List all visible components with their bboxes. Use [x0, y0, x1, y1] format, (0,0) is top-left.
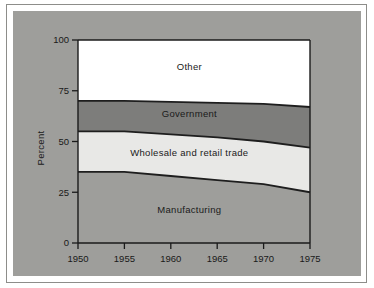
- x-tick-label-1965: 1965: [207, 253, 228, 264]
- stacked-area-chart: 0255075100 195019551960196519701975 Perc…: [0, 0, 374, 288]
- x-tick-label-1975: 1975: [299, 253, 320, 264]
- y-tick-label-50: 50: [58, 136, 69, 147]
- series-label-government: Government: [162, 108, 217, 119]
- y-tick-label-100: 100: [53, 34, 69, 45]
- x-tick-label-1960: 1960: [160, 253, 181, 264]
- area-other: [78, 40, 310, 107]
- y-axis-ticks: [72, 40, 78, 243]
- x-tick-label-1970: 1970: [253, 253, 274, 264]
- y-tick-label-25: 25: [58, 187, 69, 198]
- series-label-other: Other: [177, 61, 202, 72]
- y-axis-title: Percent: [35, 131, 46, 166]
- x-axis-tick-labels: 195019551960196519701975: [67, 253, 320, 264]
- series-label-manufacturing: Manufacturing: [157, 204, 221, 215]
- y-axis-tick-labels: 0255075100: [53, 34, 69, 248]
- x-tick-label-1950: 1950: [67, 253, 88, 264]
- y-tick-label-0: 0: [64, 237, 69, 248]
- y-tick-label-75: 75: [58, 85, 69, 96]
- x-axis-ticks: [78, 243, 310, 249]
- x-tick-label-1955: 1955: [114, 253, 135, 264]
- figure-canvas: 0255075100 195019551960196519701975 Perc…: [0, 0, 374, 288]
- series-label-wholesale-and-retail-trade: Wholesale and retail trade: [130, 147, 248, 158]
